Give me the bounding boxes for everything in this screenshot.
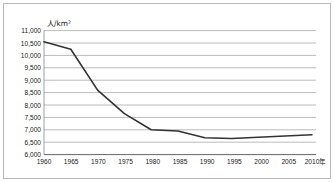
y-tick-labels: 11,000 10,500 10,000 9,500 9,000 8,500 8… xyxy=(21,27,42,158)
x-tick-label: 1975 xyxy=(118,158,133,165)
x-axis-unit-label: 年 xyxy=(319,157,326,166)
data-series-line xyxy=(44,42,312,139)
x-tick-label: 1960 xyxy=(37,158,52,165)
x-tick-label: 1980 xyxy=(145,158,160,165)
x-tick-label: 2010 xyxy=(305,158,320,165)
y-tick-label: 8,500 xyxy=(24,89,41,96)
chart-container: 11,000 10,500 10,000 9,500 9,000 8,500 8… xyxy=(0,0,334,182)
y-tick-label: 8,000 xyxy=(24,102,41,109)
y-tick-label: 10,000 xyxy=(21,52,42,59)
y-tick-label: 6,500 xyxy=(24,139,41,146)
line-chart: 11,000 10,500 10,000 9,500 9,000 8,500 8… xyxy=(0,0,334,182)
x-tick-label: 1990 xyxy=(200,158,215,165)
x-tick-label: 1965 xyxy=(64,158,79,165)
x-tick-label: 2005 xyxy=(281,158,296,165)
y-axis-unit-label: 人/km² xyxy=(47,19,71,28)
x-tick-labels: 1960 1965 1970 1975 1980 1985 1990 1995 … xyxy=(37,158,320,165)
gridlines-horizontal xyxy=(44,31,316,143)
x-tick-label: 1985 xyxy=(173,158,188,165)
x-tick-label: 1970 xyxy=(91,158,106,165)
y-tick-label: 11,000 xyxy=(21,27,41,34)
y-tick-label: 9,000 xyxy=(24,77,41,84)
y-tick-label: 9,500 xyxy=(24,64,41,71)
x-tick-label: 2000 xyxy=(254,158,269,165)
y-tick-label: 7,500 xyxy=(24,114,41,121)
y-tick-label: 10,500 xyxy=(21,40,42,47)
x-tick-label: 1995 xyxy=(227,158,242,165)
y-tick-label: 7,000 xyxy=(24,126,41,133)
